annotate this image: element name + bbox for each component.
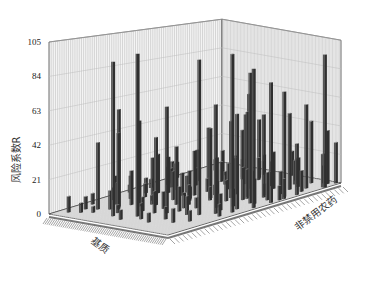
bar — [304, 104, 308, 189]
x-axis-title: 基质 — [89, 234, 112, 256]
z-axis-ticks: 021426384105 — [28, 37, 42, 219]
bar — [164, 206, 168, 220]
bar — [84, 196, 88, 210]
bar — [252, 68, 256, 208]
bar — [288, 113, 292, 190]
bar — [153, 191, 157, 214]
bar — [193, 150, 197, 196]
bar — [282, 178, 286, 199]
bar — [257, 157, 261, 180]
bar — [265, 172, 269, 201]
bar — [309, 121, 313, 184]
bar — [218, 203, 222, 216]
bar — [295, 143, 299, 195]
bar — [143, 183, 147, 198]
bar — [136, 54, 140, 217]
bar — [235, 114, 239, 210]
bar — [214, 104, 218, 214]
z-tick-label: 0 — [37, 209, 42, 219]
bar — [67, 196, 71, 213]
bar — [208, 186, 212, 200]
bar — [111, 62, 115, 217]
bar — [147, 212, 151, 223]
z-tick-label: 63 — [32, 106, 42, 116]
z-tick-label: 42 — [32, 140, 41, 150]
bar — [230, 54, 234, 213]
bar — [91, 193, 95, 205]
bar — [117, 133, 121, 210]
bar — [224, 180, 228, 202]
z-tick-label: 84 — [32, 71, 42, 81]
bar — [171, 208, 175, 223]
bar — [269, 82, 273, 203]
bar — [334, 142, 338, 184]
bar — [188, 210, 192, 222]
bar — [323, 54, 327, 188]
bar — [177, 186, 181, 212]
z-tick-label: 21 — [32, 175, 41, 185]
bar — [300, 170, 304, 192]
bar — [220, 161, 224, 182]
bar — [139, 202, 143, 219]
bar — [241, 167, 245, 200]
bar — [96, 142, 100, 210]
bar — [262, 114, 266, 198]
bar — [197, 59, 201, 215]
bar3d-chart: 021426384105 风险系数R 基质 非禁用农药 — [0, 0, 367, 294]
bar — [91, 206, 95, 213]
bar — [79, 202, 83, 213]
bar — [278, 185, 282, 201]
bar — [130, 170, 134, 205]
z-tick-label: 105 — [28, 37, 42, 47]
bar — [119, 209, 123, 220]
z-axis-title: 风险系数R — [10, 136, 22, 183]
bar — [165, 106, 169, 213]
